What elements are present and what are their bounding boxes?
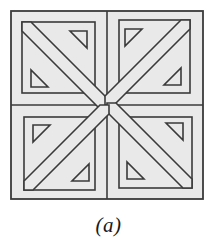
figure-caption: (a)	[0, 210, 217, 240]
geometric-pattern-figure	[0, 0, 217, 212]
figure-container: (a)	[0, 0, 217, 245]
